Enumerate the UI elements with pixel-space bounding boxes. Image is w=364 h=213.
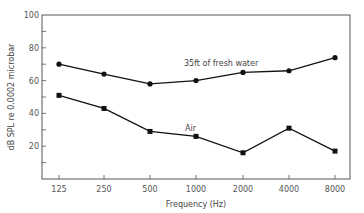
y-tick-label: 60 bbox=[29, 77, 39, 86]
data-point-circle bbox=[193, 78, 198, 83]
data-point-circle bbox=[286, 68, 291, 73]
data-point-square bbox=[102, 106, 107, 111]
y-tick-label: 80 bbox=[29, 44, 39, 53]
data-point-square bbox=[148, 129, 153, 134]
y-tick-label: 40 bbox=[29, 109, 39, 118]
annotation-air: Air bbox=[185, 124, 197, 133]
x-tick-label: 8000 bbox=[325, 185, 345, 194]
data-point-square bbox=[241, 150, 246, 155]
plot-frame bbox=[42, 15, 350, 179]
data-point-square bbox=[287, 126, 292, 131]
line-chart: 204060801001252505001000200040008000Freq… bbox=[0, 0, 364, 213]
x-tick-label: 1000 bbox=[186, 185, 206, 194]
data-point-circle bbox=[56, 62, 61, 67]
annotation-water: 35ft of fresh water bbox=[184, 59, 259, 68]
x-tick-label: 500 bbox=[142, 185, 157, 194]
data-point-square bbox=[333, 149, 338, 154]
data-point-square bbox=[194, 134, 199, 139]
y-axis-label: dB SPL re 0.0002 microbar bbox=[7, 43, 16, 151]
series-line bbox=[59, 95, 335, 152]
x-tick-label: 250 bbox=[96, 185, 111, 194]
x-axis-label: Frequency (Hz) bbox=[166, 200, 226, 209]
data-point-circle bbox=[240, 70, 245, 75]
data-point-circle bbox=[101, 71, 106, 76]
y-tick-label: 100 bbox=[24, 11, 39, 20]
x-tick-label: 4000 bbox=[279, 185, 299, 194]
x-tick-label: 125 bbox=[51, 185, 66, 194]
data-point-circle bbox=[332, 55, 337, 60]
data-point-square bbox=[57, 93, 62, 98]
x-tick-label: 2000 bbox=[233, 185, 253, 194]
data-point-circle bbox=[147, 81, 152, 86]
y-tick-label: 20 bbox=[29, 142, 39, 151]
